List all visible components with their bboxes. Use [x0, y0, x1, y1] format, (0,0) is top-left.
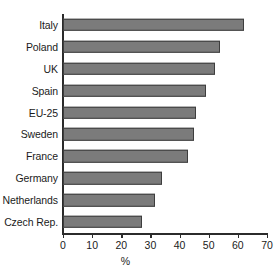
value-axis-tick-label: 50 [203, 239, 215, 251]
bar [63, 194, 155, 207]
bar-row: UK [63, 58, 279, 80]
bar [63, 41, 220, 54]
bar-row: Netherlands [63, 189, 279, 211]
category-label: Netherlands [2, 194, 58, 206]
value-axis-title: % [0, 255, 279, 267]
category-label: Czech Rep. [4, 216, 58, 228]
category-label: EU-25 [29, 107, 58, 119]
category-label: France [26, 150, 58, 162]
value-axis-tick-label: 10 [86, 239, 98, 251]
bar-row: Germany [63, 167, 279, 189]
bars-layer: ItalyPolandUKSpainEU-25SwedenFranceGerma… [63, 14, 279, 233]
value-axis-tick [92, 233, 93, 238]
value-axis-tick-label: 60 [232, 239, 244, 251]
value-axis-tick-label: 20 [115, 239, 127, 251]
value-axis-tick [121, 233, 122, 238]
bar-chart-figure: ItalyPolandUKSpainEU-25SwedenFranceGerma… [0, 0, 279, 271]
bar-row: Poland [63, 36, 279, 58]
bar [63, 150, 188, 163]
bar [63, 128, 194, 141]
value-axis-tick [267, 233, 268, 238]
value-axis-tick [180, 233, 181, 238]
bar-row: France [63, 145, 279, 167]
bar-row: Czech Rep. [63, 211, 279, 233]
category-label: UK [44, 63, 58, 75]
bar [63, 62, 215, 75]
category-label: Poland [26, 41, 58, 53]
bar [63, 19, 244, 32]
bar-row: Sweden [63, 123, 279, 145]
bar-row: Italy [63, 14, 279, 36]
value-axis-tick [238, 233, 239, 238]
value-axis-tick [209, 233, 210, 238]
value-axis-tick-label: 30 [145, 239, 157, 251]
bar [63, 84, 206, 97]
value-axis-tick-label: 70 [261, 239, 273, 251]
category-label: Italy [39, 19, 58, 31]
value-axis-tick [63, 233, 64, 238]
category-label: Sweden [21, 128, 58, 140]
bar-row: EU-25 [63, 102, 279, 124]
category-label: Spain [32, 85, 58, 97]
bar [63, 216, 142, 229]
category-label: Germany [16, 172, 58, 184]
value-axis-tick-label: 0 [60, 239, 66, 251]
value-axis: % 010203040506070 [0, 233, 279, 271]
value-axis-title-text: % [121, 255, 130, 267]
bar [63, 172, 162, 185]
value-axis-tick [150, 233, 151, 238]
value-axis-tick-label: 40 [174, 239, 186, 251]
plot-area: ItalyPolandUKSpainEU-25SwedenFranceGerma… [0, 14, 279, 233]
bar [63, 106, 196, 119]
bar-row: Spain [63, 80, 279, 102]
